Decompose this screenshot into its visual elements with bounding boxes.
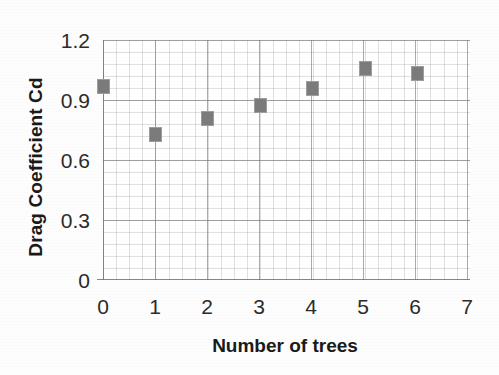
x-tick-label: 2 xyxy=(187,296,227,317)
x-tick-label: 1 xyxy=(135,296,175,317)
gridline-horizontal xyxy=(103,160,470,161)
y-axis-line xyxy=(103,40,104,280)
gridline-horizontal xyxy=(103,100,470,101)
y-tick-label: 0.6 xyxy=(44,150,90,171)
x-tick-label: 0 xyxy=(83,296,123,317)
chart-figure: Drag Coefficient Cd 1.2 0.9 0.6 0.3 0 0 … xyxy=(0,0,499,375)
x-tick-label: 3 xyxy=(239,296,279,317)
gridline-vertical xyxy=(467,40,468,280)
gridline-vertical xyxy=(259,40,260,280)
gridline-horizontal xyxy=(103,220,470,221)
gridline-vertical xyxy=(363,40,364,280)
y-tick-label: 0.3 xyxy=(44,210,90,231)
gridline-vertical xyxy=(207,40,208,280)
x-tick-label: 4 xyxy=(291,296,331,317)
data-point-marker xyxy=(97,79,110,94)
plot-area xyxy=(103,40,470,280)
x-tick-label: 7 xyxy=(447,296,487,317)
y-tick-label: 0 xyxy=(44,270,90,291)
gridline-vertical xyxy=(311,40,312,280)
y-tick-label: 1.2 xyxy=(44,30,90,51)
x-axis-tick-labels: 0 1 2 3 4 5 6 7 xyxy=(0,296,499,326)
data-point-marker xyxy=(254,98,267,113)
x-tick-label: 6 xyxy=(395,296,435,317)
x-axis-title: Number of trees xyxy=(100,335,470,357)
y-tick-label: 0.9 xyxy=(44,90,90,111)
data-point-marker xyxy=(201,111,214,126)
data-point-marker xyxy=(411,66,424,81)
x-axis-line xyxy=(97,279,470,280)
data-point-marker xyxy=(149,127,162,142)
gridline-horizontal xyxy=(103,40,470,41)
data-point-marker xyxy=(359,61,372,76)
gridline-vertical xyxy=(155,40,156,280)
data-point-marker xyxy=(306,81,319,96)
x-tick-label: 5 xyxy=(343,296,383,317)
